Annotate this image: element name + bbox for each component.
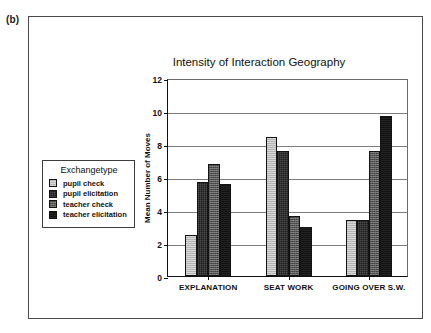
legend-item-label: teacher check bbox=[63, 200, 113, 209]
legend: Exchangetype pupil checkpupil elicitatio… bbox=[42, 160, 135, 228]
bar[interactable] bbox=[197, 182, 209, 276]
legend-item[interactable]: pupil elicitation bbox=[49, 189, 129, 199]
legend-item-label: teacher elicitation bbox=[63, 210, 127, 219]
y-tick-label: 4 bbox=[157, 207, 162, 217]
bar[interactable] bbox=[277, 151, 289, 276]
legend-item[interactable]: teacher elicitation bbox=[49, 210, 129, 220]
x-tick-label: EXPLANATION bbox=[179, 283, 237, 292]
y-tick-label: 10 bbox=[153, 108, 162, 118]
legend-item-label: pupil elicitation bbox=[63, 189, 118, 198]
legend-swatch-icon bbox=[49, 190, 57, 198]
chart-title: Intensity of Interaction Geography bbox=[128, 56, 390, 68]
legend-swatch-icon bbox=[49, 179, 57, 187]
legend-item[interactable]: teacher check bbox=[49, 199, 129, 209]
legend-title: Exchangetype bbox=[49, 165, 129, 175]
legend-items: pupil checkpupil elicitationteacher chec… bbox=[49, 178, 129, 220]
x-tick-label: SEAT WORK bbox=[264, 283, 314, 292]
bar-group bbox=[185, 80, 231, 276]
y-tick-label: 0 bbox=[157, 273, 162, 283]
bar[interactable] bbox=[289, 216, 301, 276]
legend-item[interactable]: pupil check bbox=[49, 178, 129, 188]
plot-area: 024681012 EXPLANATIONSEAT WORKGOING OVER… bbox=[167, 79, 408, 277]
y-tick-mark bbox=[164, 278, 168, 279]
figure-root: (b) Intensity of Interaction Geography M… bbox=[0, 0, 431, 333]
y-tick-label: 2 bbox=[157, 240, 162, 250]
bar[interactable] bbox=[220, 184, 232, 276]
bar[interactable] bbox=[380, 116, 392, 276]
x-tick-mark bbox=[289, 276, 290, 280]
legend-swatch-icon bbox=[49, 211, 57, 219]
bar[interactable] bbox=[208, 164, 220, 276]
x-tick-mark bbox=[369, 276, 370, 280]
legend-swatch-icon bbox=[49, 200, 57, 208]
y-axis-title: Mean Number of Moves bbox=[143, 133, 152, 223]
x-tick-mark bbox=[208, 276, 209, 280]
bar[interactable] bbox=[357, 220, 369, 276]
legend-item-label: pupil check bbox=[63, 179, 104, 188]
y-tick-label: 6 bbox=[157, 174, 162, 184]
bars-layer bbox=[168, 80, 407, 276]
x-tick-label: GOING OVER S.W. bbox=[332, 283, 405, 292]
bar[interactable] bbox=[369, 151, 381, 276]
bar[interactable] bbox=[185, 235, 197, 276]
panel-label: (b) bbox=[6, 14, 19, 25]
bar-group bbox=[266, 80, 312, 276]
bar-group bbox=[346, 80, 392, 276]
bar[interactable] bbox=[300, 227, 312, 276]
bar[interactable] bbox=[266, 137, 278, 276]
y-tick-label: 12 bbox=[153, 75, 162, 85]
y-tick-label: 8 bbox=[157, 141, 162, 151]
bar[interactable] bbox=[346, 220, 358, 276]
